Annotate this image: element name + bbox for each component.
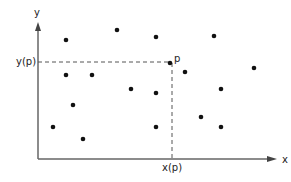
- y-axis-arrow-icon: [35, 22, 41, 31]
- data-point: [199, 115, 204, 120]
- scatter-diagram: y x y(p) x(p) p: [0, 0, 291, 182]
- y-axis-label: y: [34, 7, 40, 18]
- x-axis-label: x: [282, 154, 288, 165]
- data-point: [154, 35, 159, 40]
- point-p-label: p: [174, 53, 180, 64]
- data-point: [64, 38, 69, 43]
- data-point: [64, 73, 69, 78]
- data-point: [183, 70, 188, 75]
- data-point: [51, 125, 56, 130]
- yp-label: y(p): [16, 56, 36, 67]
- x-axis-arrow-icon: [267, 156, 277, 162]
- data-point: [252, 66, 257, 71]
- data-point: [129, 87, 134, 92]
- data-point: [81, 137, 86, 142]
- xp-label: x(p): [162, 162, 182, 173]
- data-point: [168, 61, 173, 66]
- data-point: [90, 73, 95, 78]
- data-point: [219, 125, 224, 130]
- data-point: [212, 34, 217, 39]
- data-point: [154, 125, 159, 130]
- data-points: [51, 28, 257, 142]
- data-point: [71, 103, 76, 108]
- data-point: [154, 91, 159, 96]
- data-point: [219, 87, 224, 92]
- data-point: [115, 28, 120, 33]
